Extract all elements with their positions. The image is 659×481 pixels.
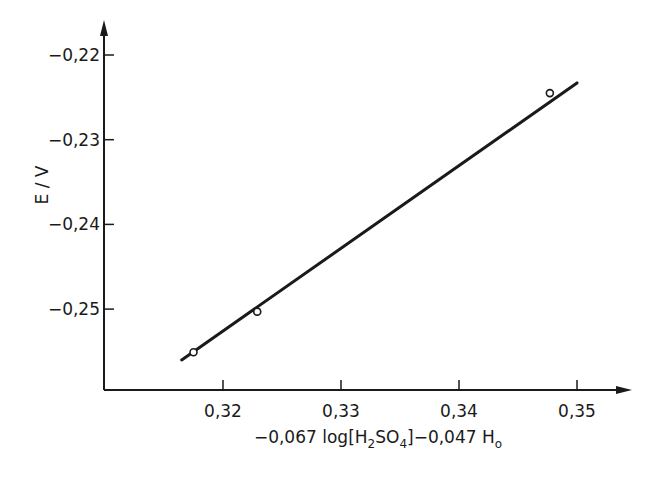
fit-line xyxy=(182,83,577,360)
y-axis-arrow-icon xyxy=(100,20,108,36)
x-label-sub-4: 4 xyxy=(399,437,407,451)
x-axis-label: −0,067 log[H2SO4]−0,047 Ho xyxy=(254,427,502,451)
chart: 0,320,330,340,35 −0,22−0,23−0,24−0,25 E … xyxy=(0,0,659,481)
x-tick-label: 0,33 xyxy=(322,401,360,421)
data-series xyxy=(182,83,577,360)
x-label-prefix: −0,067 log[H xyxy=(254,427,368,447)
x-tick-label: 0,32 xyxy=(204,401,242,421)
axes xyxy=(100,20,632,394)
data-point-open-circle-icon xyxy=(254,308,261,315)
x-tick-label: 0,34 xyxy=(440,401,478,421)
y-tick-label: −0,22 xyxy=(48,45,100,65)
data-point-open-circle-icon xyxy=(546,90,553,97)
x-label-sub-2: 2 xyxy=(368,437,376,451)
y-tick-label: −0,24 xyxy=(48,214,100,234)
y-axis-label: E / V xyxy=(32,165,52,204)
y-tick-label: −0,25 xyxy=(48,299,100,319)
x-label-sub-o: o xyxy=(495,437,502,451)
data-point-open-circle-icon xyxy=(190,349,197,356)
x-axis-arrow-icon xyxy=(616,386,632,394)
x-ticks: 0,320,330,340,35 xyxy=(204,380,596,421)
y-tick-label: −0,23 xyxy=(48,130,100,150)
x-tick-label: 0,35 xyxy=(558,401,596,421)
x-label-so: SO xyxy=(375,427,399,447)
x-label-suffix: ]−0,047 H xyxy=(407,427,495,447)
